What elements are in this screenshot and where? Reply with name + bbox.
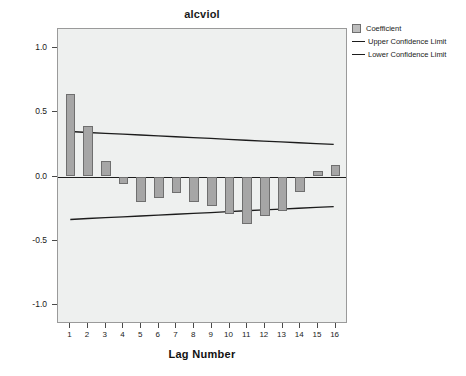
- acf-bar: [313, 171, 323, 176]
- legend-swatch-icon: [352, 24, 361, 33]
- x-tick-mark: [122, 323, 123, 328]
- y-tick-label: -1.0: [13, 299, 47, 309]
- legend-label: Coefficient: [366, 24, 401, 33]
- x-tick-mark: [211, 323, 212, 328]
- x-tick-mark: [105, 323, 106, 328]
- x-tick-mark: [158, 323, 159, 328]
- acf-bar: [189, 177, 199, 203]
- y-tick-label: 0.5: [13, 106, 47, 116]
- legend: CoefficientUpper Confidence LimitLower C…: [352, 22, 464, 61]
- legend-label: Upper Confidence Limit: [368, 37, 446, 46]
- x-tick-mark: [175, 323, 176, 328]
- acf-bar: [136, 177, 146, 203]
- y-tick-label: 0.0: [13, 171, 47, 181]
- acf-bar: [242, 177, 252, 224]
- lower-confidence-limit-line: [70, 207, 333, 220]
- y-tick-label: -0.5: [13, 235, 47, 245]
- legend-label: Lower Confidence Limit: [368, 50, 446, 59]
- x-tick-mark: [282, 323, 283, 328]
- x-tick-mark: [69, 323, 70, 328]
- y-tick-label: 1.0: [13, 42, 47, 52]
- x-tick-mark: [87, 323, 88, 328]
- legend-item: Upper Confidence Limit: [352, 35, 464, 47]
- acf-bar: [207, 177, 217, 207]
- legend-line-icon: [352, 41, 365, 42]
- acf-bar: [66, 94, 76, 176]
- acf-bar: [295, 177, 305, 192]
- acf-bar: [83, 126, 93, 176]
- x-axis-label: Lag Number: [57, 348, 347, 360]
- acf-chart: alcviol ACF 1.00.50.0-0.5-1.0 1234567891…: [0, 0, 466, 376]
- acf-bar: [278, 177, 288, 212]
- x-tick-mark: [229, 323, 230, 328]
- acf-bar: [225, 177, 235, 214]
- x-tick-mark: [246, 323, 247, 328]
- legend-line-icon: [352, 54, 365, 55]
- x-tick-label: 16: [325, 330, 345, 339]
- acf-bar: [101, 161, 111, 176]
- x-tick-mark: [264, 323, 265, 328]
- acf-bar: [154, 177, 164, 199]
- plot-area: [57, 28, 347, 323]
- legend-item: Coefficient: [352, 22, 464, 34]
- acf-bar: [260, 177, 270, 217]
- x-tick-mark: [140, 323, 141, 328]
- x-tick-mark: [335, 323, 336, 328]
- acf-bar: [119, 177, 129, 185]
- acf-bar: [172, 177, 182, 194]
- chart-title: alcviol: [57, 8, 347, 20]
- x-tick-mark: [317, 323, 318, 328]
- legend-item: Lower Confidence Limit: [352, 48, 464, 60]
- upper-confidence-limit-line: [70, 132, 333, 145]
- x-tick-mark: [193, 323, 194, 328]
- x-tick-mark: [299, 323, 300, 328]
- acf-bar: [331, 165, 341, 177]
